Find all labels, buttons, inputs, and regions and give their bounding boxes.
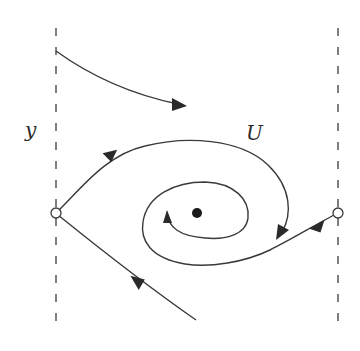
arrowhead-icon <box>163 210 172 223</box>
left-equilibrium-point <box>51 208 61 218</box>
orbit-u <box>56 140 288 232</box>
orbit-label-u: U <box>246 121 264 145</box>
arrowhead-icon <box>309 218 325 232</box>
arrowhead-icon <box>172 98 187 111</box>
lower-trajectory <box>58 215 196 320</box>
phase-diagram: y U <box>0 0 360 351</box>
arrowhead-icon <box>102 150 119 163</box>
top-trajectory <box>56 51 178 104</box>
center-point <box>192 208 202 218</box>
y-axis-label: y <box>24 118 37 142</box>
spiral-trajectory <box>142 182 334 265</box>
arrowhead-icon <box>276 224 289 240</box>
right-equilibrium-point <box>333 208 343 218</box>
